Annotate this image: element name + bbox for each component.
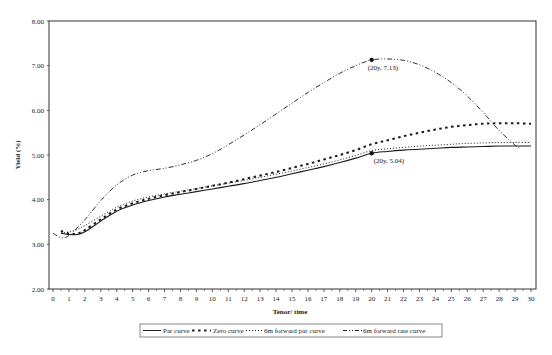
x-tick-label: 8: [179, 295, 183, 303]
x-tick-label: 26: [464, 295, 472, 303]
x-tick-label: 22: [400, 295, 408, 303]
legend: Par curve Zero curve 6m forward par curv…: [140, 324, 442, 337]
y-tick-label: 6.00: [32, 107, 45, 115]
x-tick-label: 30: [528, 295, 536, 303]
x-tick-label: 7: [163, 295, 167, 303]
par20-marker: [369, 151, 373, 155]
x-tick-label: 23: [416, 295, 424, 303]
x-tick-label: 14: [273, 295, 281, 303]
peak-annotation: (20y, 7.13): [368, 64, 399, 72]
x-tick-label: 19: [352, 295, 360, 303]
x-axis: 0123456789101112131415161718192021222324…: [51, 289, 535, 303]
x-tick-label: 11: [225, 295, 232, 303]
x-tick-label: 20: [368, 295, 376, 303]
x-tick-label: 24: [432, 295, 440, 303]
x-tick-label: 3: [99, 295, 103, 303]
x-tick-label: 21: [384, 295, 392, 303]
y-tick-label: 5.00: [32, 152, 45, 160]
x-tick-label: 15: [289, 295, 297, 303]
x-tick-label: 9: [195, 295, 199, 303]
y-tick-label: 2.00: [32, 286, 45, 294]
legend-item-par: Par curve: [163, 327, 190, 335]
x-tick-label: 27: [480, 295, 488, 303]
legend-item-fwd-rate: 6m forward rate curve: [363, 327, 425, 335]
x-tick-label: 5: [131, 295, 135, 303]
x-tick-label: 2: [83, 295, 87, 303]
y-axis: 2.003.004.005.006.007.008.00: [32, 18, 49, 294]
x-tick-label: 0: [51, 295, 55, 303]
y-tick-label: 8.00: [32, 18, 45, 26]
x-tick-label: 6: [147, 295, 151, 303]
legend-item-zero: Zero curve: [213, 327, 244, 335]
x-tick-label: 16: [304, 295, 312, 303]
x-tick-label: 28: [496, 295, 504, 303]
x-tick-label: 10: [209, 295, 217, 303]
plot-area: [49, 21, 536, 289]
x-tick-label: 12: [241, 295, 249, 303]
x-axis-title: Tenor/ time: [273, 308, 308, 316]
legend-item-fwd-par: 6m forward par curve: [264, 327, 325, 335]
y-axis-title: Yield (%): [14, 140, 22, 170]
x-tick-label: 29: [512, 295, 520, 303]
x-tick-label: 1: [67, 295, 71, 303]
x-tick-label: 25: [448, 295, 456, 303]
x-tick-label: 4: [115, 295, 119, 303]
x-tick-label: 18: [336, 295, 344, 303]
x-tick-label: 13: [257, 295, 265, 303]
peak-marker: [369, 58, 373, 62]
yield-curve-chart: 2.003.004.005.006.007.008.00 01234567891…: [0, 0, 552, 355]
par20-annotation: (20y, 5.04): [374, 157, 405, 165]
x-tick-label: 17: [320, 295, 328, 303]
y-tick-label: 3.00: [32, 241, 45, 249]
y-tick-label: 7.00: [32, 62, 45, 70]
y-tick-label: 4.00: [32, 196, 45, 204]
